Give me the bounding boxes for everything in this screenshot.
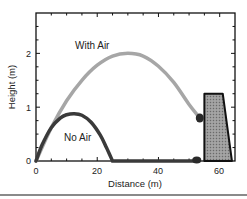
no-air-trajectory [36,114,197,161]
with-air-ball-marker [196,113,204,122]
no-air-label: No Air [64,132,92,143]
x-axis-title: Distance (m) [108,178,162,189]
wall-obstacle [204,94,232,161]
x-tick-60: 60 [214,166,224,176]
no-air-ball-marker [192,157,201,164]
y-tick-labels: 0 1 2 [26,49,31,166]
x-tick-40: 40 [153,166,163,176]
x-tick-labels: 0 20 40 60 [33,166,224,176]
y-tick-0: 0 [26,156,31,166]
x-tick-20: 20 [92,166,102,176]
with-air-label: With Air [75,40,110,51]
y-axis-title: Height (m) [6,65,17,109]
y-tick-2: 2 [26,49,31,59]
y-tick-1: 1 [26,103,31,113]
bottom-divider [0,194,247,196]
x-tick-0: 0 [33,166,38,176]
trajectory-chart: 0 20 40 60 0 1 2 Distance (m) Height (m)… [0,0,247,199]
with-air-trajectory [36,53,200,161]
